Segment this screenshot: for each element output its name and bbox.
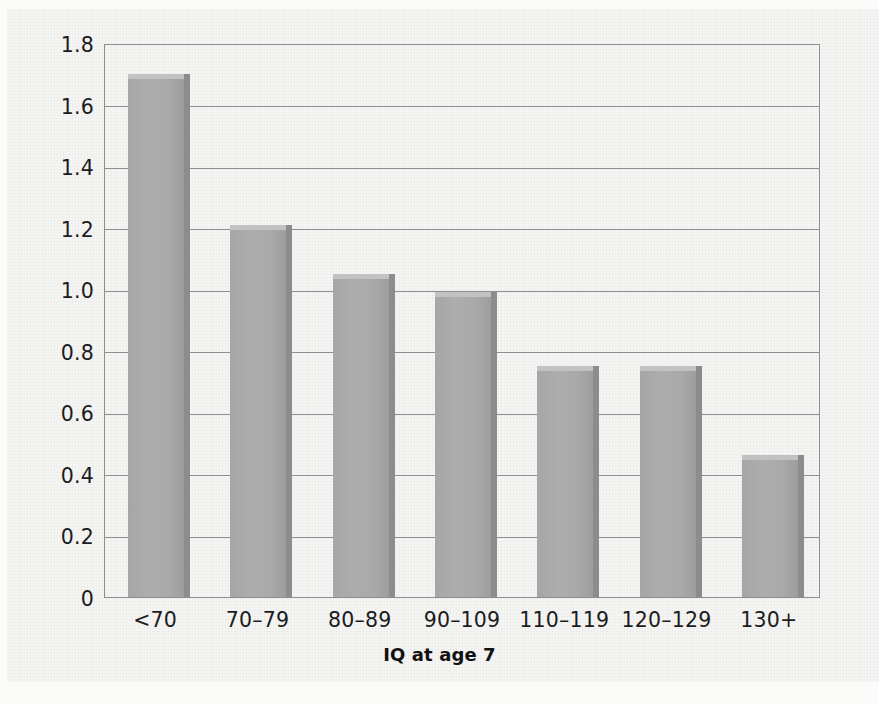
page-edge-bottom — [0, 682, 879, 704]
y-axis-tick-label: 0 — [81, 587, 94, 611]
page-edge-left — [0, 0, 7, 704]
bar — [435, 292, 491, 597]
x-axis-tick-label: 110–119 — [519, 608, 609, 632]
gridline — [105, 106, 819, 107]
page-edge-top — [0, 0, 879, 9]
bar — [333, 274, 389, 597]
y-axis-tick-label: 0.8 — [61, 341, 94, 365]
x-axis-tick-label: 90–109 — [424, 608, 501, 632]
bar — [537, 366, 593, 597]
bar — [640, 366, 696, 597]
x-axis-tick-label: 70–79 — [226, 608, 289, 632]
x-axis-tick-label: 120–129 — [622, 608, 712, 632]
bar — [742, 455, 798, 597]
copyright-credit: © Cengage Learning 2013 — [875, 684, 879, 704]
figure-page: Relative mortality rate 1.81.61.41.21.00… — [0, 0, 879, 704]
x-axis-tick-label: 80–89 — [328, 608, 391, 632]
y-axis-tick-label: 1.6 — [61, 95, 94, 119]
y-axis-tick-label: 1.8 — [61, 33, 94, 57]
bar — [128, 74, 184, 597]
y-axis-tick-label: 0.4 — [61, 464, 94, 488]
y-axis-tick-label: 0.2 — [61, 525, 94, 549]
gridline — [105, 229, 819, 230]
x-axis-tick-label: <70 — [133, 608, 177, 632]
gridline — [105, 168, 819, 169]
x-axis-title: IQ at age 7 — [0, 644, 879, 665]
plot-area: 1.81.61.41.21.00.80.60.40.20 — [104, 44, 820, 598]
bar — [230, 225, 286, 597]
y-axis-tick-label: 1.0 — [61, 279, 94, 303]
y-axis-tick-label: 1.4 — [61, 156, 94, 180]
y-axis-tick-label: 1.2 — [61, 218, 94, 242]
y-axis-tick-label: 0.6 — [61, 402, 94, 426]
x-axis-tick-label: 130+ — [740, 608, 797, 632]
